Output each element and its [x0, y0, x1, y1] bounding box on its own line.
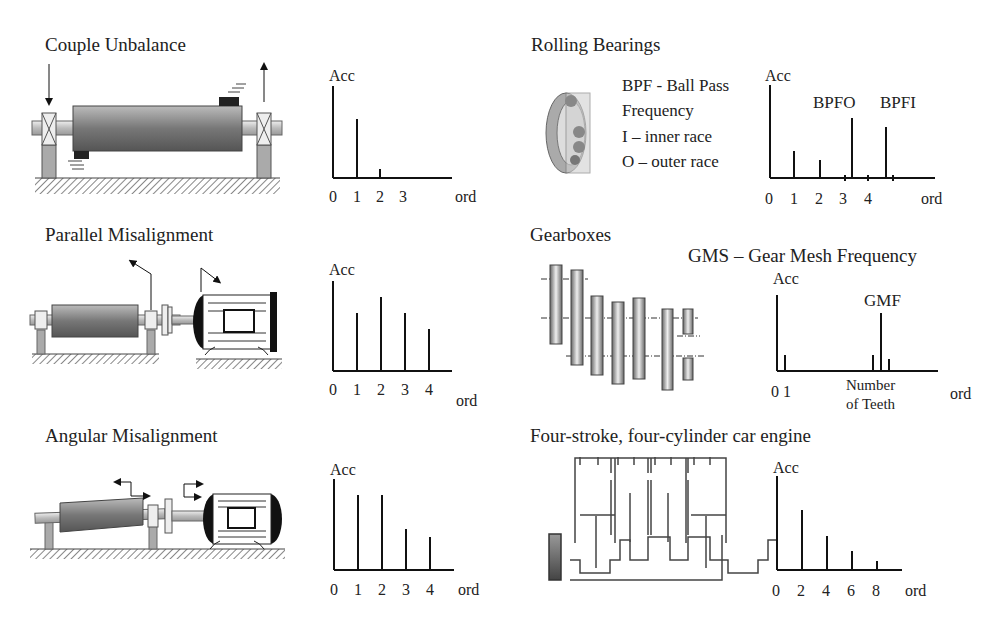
bearing-legend-line: O – outer race — [622, 152, 719, 172]
chart-engine — [777, 476, 902, 570]
x-tick: 3 — [401, 381, 409, 399]
y-axis-label: Acc — [773, 270, 799, 288]
x-tick: 2 — [376, 188, 384, 206]
x-tick: 4 — [864, 190, 872, 208]
panel-title-engine: Four-stroke, four-cylinder car engine — [530, 425, 811, 447]
x-tick: 1 — [790, 190, 798, 208]
x-tick: 4 — [425, 381, 433, 399]
x-tick: 6 — [847, 582, 855, 600]
chart-gearboxes — [777, 295, 938, 371]
x-tick: 2 — [377, 381, 385, 399]
x-tick: 0 — [330, 581, 338, 599]
x-tick: 3 — [839, 190, 847, 208]
panel-title-couple-unbalance: Couple Unbalance — [45, 34, 186, 56]
x-axis-label: ord — [455, 188, 476, 206]
bearing-legend-line: BPF - Ball Pass — [622, 76, 729, 96]
gearbox-icon — [541, 265, 705, 390]
panel-title-gearboxes: Gearboxes — [530, 224, 611, 246]
x-tick: 1 — [354, 581, 362, 599]
x-tick: 2 — [797, 582, 805, 600]
bpfo-annotation: BPFO — [813, 93, 856, 113]
x-tick: 1 — [353, 381, 361, 399]
y-axis-label: Acc — [330, 461, 356, 479]
x-axis-label: ord — [458, 581, 479, 599]
x-tick: 0 — [329, 381, 337, 399]
gmf-annotation: GMF — [864, 291, 901, 311]
x-tick: 0 — [329, 188, 337, 206]
x-tick: 4 — [426, 581, 434, 599]
x-tick: 0 — [765, 190, 773, 208]
y-axis-label: Acc — [329, 261, 355, 279]
parallel-misalignment-machine-icon — [30, 262, 282, 369]
x-tick: 3 — [402, 581, 410, 599]
bpfi-annotation: BPFI — [880, 93, 916, 113]
x-axis-label: ord — [456, 392, 477, 410]
chart-couple-unbalance — [333, 86, 452, 178]
couple-unbalance-machine-icon — [32, 64, 282, 194]
bearing-legend-line: Frequency — [622, 101, 694, 121]
x-tick: 1 — [353, 188, 361, 206]
x-axis-label: ord — [921, 190, 942, 208]
y-axis-label: Acc — [765, 67, 791, 85]
x-tick: 8 — [872, 582, 880, 600]
y-axis-label: Acc — [773, 459, 799, 477]
panel-title-rolling-bearings: Rolling Bearings — [531, 34, 660, 56]
panel-title-angular-misalignment: Angular Misalignment — [45, 425, 218, 447]
engine-schematic-icon — [549, 457, 778, 580]
rolling-bearing-icon — [546, 93, 590, 173]
x-tick: 3 — [399, 188, 407, 206]
chart-parallel-misalignment — [333, 281, 452, 371]
x-tick: 0 1 — [771, 383, 791, 401]
angular-misalignment-machine-icon — [30, 482, 285, 559]
x-tick-number: Number — [846, 377, 895, 394]
bearing-legend-line: I – inner race — [622, 127, 712, 147]
x-tick: 4 — [822, 582, 830, 600]
x-tick-teeth: of Teeth — [846, 396, 895, 413]
x-tick: 2 — [378, 581, 386, 599]
x-tick: 0 — [772, 582, 780, 600]
chart-angular-misalignment — [334, 479, 454, 570]
gearbox-subtitle: GMS – Gear Mesh Frequency — [688, 245, 917, 267]
panel-title-parallel-misalignment: Parallel Misalignment — [45, 224, 213, 246]
y-axis-label: Acc — [329, 67, 355, 85]
x-axis-label: ord — [950, 385, 971, 403]
x-tick: 2 — [815, 190, 823, 208]
x-axis-label: ord — [905, 582, 926, 600]
